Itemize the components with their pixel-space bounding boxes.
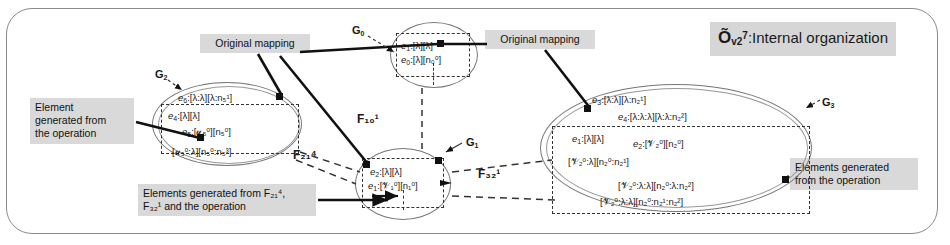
g3-row-0-body: [λ:λ][λ:n₂¹] [604,94,646,105]
g3-label-sub: 3 [831,102,835,109]
title-sub: v2 [731,36,742,47]
g3-row-5: [𝒱₂⁰:λ:λ][n₂⁰:λ:n₂²] [618,180,694,191]
connector-endpoint-g2-top [276,93,283,100]
g3-row-6: [𝒱₂⁰:λ:λ][n₂⁰:n₂¹:n₂²] [600,196,683,207]
g3-row-4-body: [𝒱₂⁰:λ][n₂⁰:n₂¹] [568,156,629,167]
mapping-label-f21: F₂₁⁴ [293,148,317,162]
group-g1-label: G1 [466,136,478,149]
title-label: Õv27:Internal organization [710,22,896,56]
group-g0-label: G0 [352,24,364,37]
g2-row-0-body: [λ:λ][λ:n₅¹] [190,92,232,103]
g1-row-0: e2:[λ][λ] [370,166,402,180]
g3-row-1: e4:[λ:λ:λ][λ:λ:n₂²] [618,111,687,125]
g2-row-0-sub: 6 [183,97,187,104]
g1-row-0-body: [λ][λ] [382,166,402,177]
g3-row-0: e3:[λ:λ][λ:n₂¹] [592,94,646,108]
callout-original-mapping-left: Original mapping [200,34,310,53]
diagram-canvas: Õv27:Internal organization Original mapp… [0,0,950,245]
g2-row-1-body: [λ][λ] [180,110,200,121]
group-g2-label: G2 [155,68,167,81]
g3-row-2: e1:[λ][λ] [572,133,604,147]
g2-row-1-sub: 4 [173,115,177,122]
connector-endpoint-g0 [437,40,444,47]
title-suffix: :Internal organization [748,29,888,46]
g2-row-2-sub: 5 [187,131,191,138]
callout-original-mapping-right: Original mapping [485,30,595,49]
g3-row-1-body: [λ:λ:λ][λ:λ:n₂²] [630,111,687,122]
g2-row-0: e6:[λ:λ][λ:n₅¹] [178,92,232,106]
connector-endpoint-g3-top [584,105,591,112]
g0-row-0-sub: 1 [406,45,410,52]
g0-label-text: G [352,24,361,36]
g3-row-3-sub: 2 [638,143,642,150]
mapping-label-f10: F₁₀¹ [357,112,379,126]
callout-elements-generated-bottom: Elements generated from F₂₁⁴, F₃₂¹ and t… [138,184,316,216]
g1-row-1: e1:[𝒱₁⁰][n₁⁰] [368,180,418,194]
g3-row-2-sub: 1 [577,138,581,145]
g1-row-0-sub: 2 [375,171,379,178]
g2-row-2: e5:[𝓊₅⁰][n₅⁰] [182,126,231,140]
g1-label-sub: 1 [475,142,479,149]
g3-row-4: [𝒱₂⁰:λ][n₂⁰:n₂¹] [568,156,629,167]
g3-row-2-body: [λ][λ] [584,133,604,144]
g2-row-1: e4:[λ][λ] [168,110,200,124]
g3-row-6-body: [𝒱₂⁰:λ:λ][n₂⁰:n₂¹:n₂²] [600,196,683,207]
g0-row-1-sub: 0 [406,59,410,66]
callout-element-generated-left: Element generated from the operation [30,98,134,144]
g3-row-3-body: [𝒱₂⁰][n₂⁰] [645,138,684,149]
g3-row-1-sub: 4 [623,116,627,123]
g3-row-0-sub: 3 [597,99,601,106]
connector-endpoint-g1-left [363,161,370,168]
connector-endpoint-g3-right [782,176,789,183]
g0-row-0: e1:[λ][λ] [401,40,433,54]
g0-label-sub: 0 [361,30,365,37]
g3-row-5-body: [𝒱₂⁰:λ:λ][n₂⁰:λ:n₂²] [618,180,694,191]
g1-row-1-sub: 1 [373,185,377,192]
g2-row-3: [𝓊₅⁰:λ][n₅⁰:n₅³] [172,146,231,157]
g2-label-text: G [155,68,164,80]
group-g3-label: G3 [822,96,834,109]
g0-row-1: e0:[λ][n₀⁰] [401,54,441,68]
g1-label-text: G [466,136,475,148]
g1-row-1-body: [𝒱₁⁰][n₁⁰] [380,180,418,191]
mapping-label-f32: F₃₂¹ [478,167,500,181]
g2-label-sub: 2 [164,74,168,81]
connector-endpoint-g1-right [435,157,442,164]
title-base: Õ [718,28,731,47]
g2-row-3-body: [𝓊₅⁰:λ][n₅⁰:n₅³] [172,146,231,157]
g3-label-text: G [822,96,831,108]
g0-row-0-body: [λ][λ] [413,40,433,51]
g0-row-1-body: [λ][n₀⁰] [413,54,441,65]
connector-endpoint-g2-left [197,134,204,141]
g3-row-3: e2:[𝒱₂⁰][n₂⁰] [633,138,684,152]
